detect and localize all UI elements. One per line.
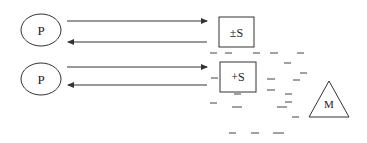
p-node-2-label: P [37, 72, 44, 87]
p-node-1: P [21, 14, 61, 46]
m-triangle: M [309, 81, 349, 117]
s-box-2: +S [220, 62, 256, 92]
s-box-2-label: +S [231, 70, 244, 84]
m-triangle-label: M [324, 98, 334, 110]
s-box-1: ±S [219, 17, 254, 47]
s-box-1-label: ±S [230, 26, 243, 40]
diagram-canvas: P P ±S +S M [0, 0, 367, 143]
p-node-2: P [21, 63, 61, 95]
p-node-1-label: P [37, 23, 44, 38]
